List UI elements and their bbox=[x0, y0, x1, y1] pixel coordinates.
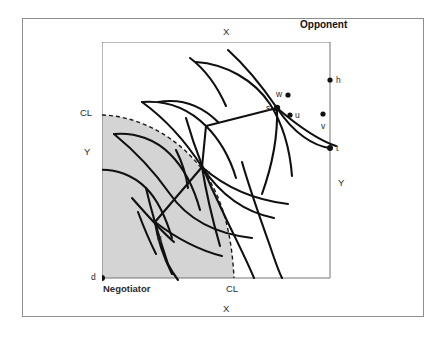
point-label-s: s bbox=[266, 104, 270, 113]
point-label-u: u bbox=[295, 111, 300, 120]
point-dot-w bbox=[285, 92, 290, 97]
point-label-q: q bbox=[157, 234, 162, 243]
point-label-r: r bbox=[207, 169, 210, 178]
point-label-d: d bbox=[91, 273, 96, 282]
axis-label-top-x: X bbox=[223, 27, 229, 37]
point-label-v: v bbox=[321, 122, 325, 131]
curve-node-r-spoke bbox=[202, 126, 206, 167]
party-label-negotiator: Negotiator bbox=[103, 284, 151, 294]
point-dot-t bbox=[327, 145, 333, 151]
point-dot-v bbox=[320, 111, 325, 116]
axis-label-right-y: Y bbox=[338, 178, 344, 188]
party-label-opponent: Opponent bbox=[300, 20, 347, 30]
curve-upper-arc-2 bbox=[190, 58, 226, 106]
point-dot-h bbox=[327, 77, 332, 82]
point-label-w: w bbox=[276, 90, 282, 99]
comparison-level-diagram: X Opponent Y Y Negotiator X CL CL h w u … bbox=[102, 42, 354, 284]
cl-label-bottom: CL bbox=[226, 284, 238, 294]
diagram-svg bbox=[102, 42, 354, 284]
point-label-t: t bbox=[336, 144, 338, 153]
axis-label-left-y: Y bbox=[84, 147, 90, 157]
axis-label-bottom-x: X bbox=[223, 304, 229, 314]
cl-label-left: CL bbox=[80, 108, 92, 118]
point-dot-s bbox=[274, 105, 280, 111]
curve-strand-2 bbox=[242, 162, 282, 278]
point-label-h: h bbox=[336, 76, 341, 85]
curve-node-s-stub bbox=[262, 108, 277, 194]
curve-opp-2 bbox=[228, 50, 330, 148]
party-label-negotiator-text: Negotiator bbox=[103, 283, 151, 294]
point-dot-u bbox=[287, 112, 292, 117]
